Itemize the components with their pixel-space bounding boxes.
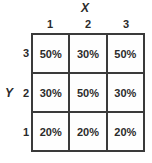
matrix-cell-x1-y3: 50%	[33, 35, 70, 72]
row-label-2: 2	[16, 73, 29, 113]
table-row: 50% 30% 50%	[33, 35, 143, 74]
matrix-cell-x2-y3: 30%	[70, 35, 107, 72]
column-header-3: 3	[107, 17, 145, 32]
x-axis-title: X	[69, 2, 101, 14]
matrix-cell-x3-y1: 20%	[108, 113, 143, 150]
matrix-figure: X Y 1 2 3 3 2 1 50% 30% 50% 30% 50% 30% …	[0, 0, 152, 163]
matrix-cell-x3-y3: 50%	[108, 35, 143, 72]
table-row: 30% 50% 30%	[33, 74, 143, 113]
column-header-row: 1 2 3	[31, 17, 145, 32]
y-axis-title: Y	[2, 87, 16, 99]
column-header-1: 1	[31, 17, 69, 32]
column-header-2: 2	[69, 17, 107, 32]
table-row: 20% 20% 20%	[33, 113, 143, 150]
matrix-cell-x2-y2: 50%	[70, 74, 107, 111]
matrix-cell-x2-y1: 20%	[70, 113, 107, 150]
matrix-cell-x1-y1: 20%	[33, 113, 70, 150]
matrix-cell-x3-y2: 30%	[108, 74, 143, 111]
row-label-column: 3 2 1	[16, 33, 29, 152]
row-label-3: 3	[16, 33, 29, 73]
matrix-cell-x1-y2: 30%	[33, 74, 70, 111]
row-label-1: 1	[16, 112, 29, 152]
matrix-grid: 50% 30% 50% 30% 50% 30% 20% 20% 20%	[31, 33, 145, 152]
